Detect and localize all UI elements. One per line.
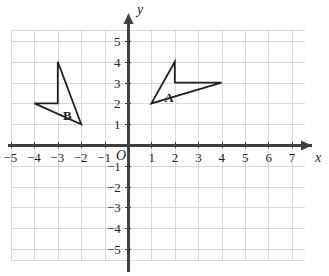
y-tick-label--3: −3	[107, 201, 121, 214]
coordinate-plot	[0, 0, 329, 276]
y-tick-label-2: 2	[114, 97, 121, 110]
x-tick-label--5: −5	[4, 151, 18, 164]
y-tick-label-4: 4	[114, 56, 121, 69]
y-tick-label--4: −4	[107, 222, 121, 235]
shape-label-a: A	[164, 91, 173, 104]
y-axis-label: y	[137, 3, 143, 17]
x-tick-label-5: 5	[242, 151, 249, 164]
x-axis-label: x	[315, 151, 321, 165]
x-tick-label-4: 4	[219, 151, 226, 164]
x-tick-label--2: −2	[74, 151, 88, 164]
y-tick-label--2: −2	[107, 181, 121, 194]
x-tick-label-7: 7	[289, 151, 296, 164]
x-tick-label-6: 6	[265, 151, 272, 164]
x-tick-label-1: 1	[148, 151, 155, 164]
y-tick-label-5: 5	[114, 35, 121, 48]
x-tick-label-2: 2	[172, 151, 179, 164]
y-tick-label-1: 1	[114, 118, 121, 131]
x-tick-label--3: −3	[50, 151, 64, 164]
axes	[8, 13, 312, 272]
x-tick-label-3: 3	[195, 151, 202, 164]
origin-label: O	[116, 149, 126, 163]
shape-label-b: B	[63, 109, 72, 122]
y-tick-label-3: 3	[114, 77, 121, 90]
x-tick-label--4: −4	[27, 151, 41, 164]
x-axis-arrowhead	[301, 141, 312, 151]
y-axis-arrowhead	[124, 13, 134, 24]
y-tick-label--5: −5	[107, 243, 121, 256]
coordinate-plane-figure: −5−4−3−2−1123456754321−1−2−3−4−5OxyAB	[0, 0, 329, 276]
